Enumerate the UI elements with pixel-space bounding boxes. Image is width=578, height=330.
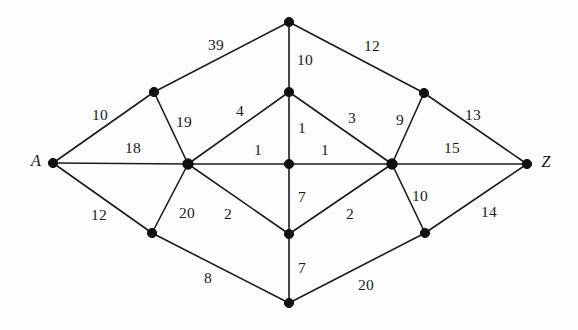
edge-weight-label: 18 [125, 140, 141, 156]
edge-weight-label: 2 [224, 206, 232, 222]
graph-node [284, 17, 293, 26]
graph-node [284, 298, 293, 307]
graph-node [387, 159, 397, 169]
edge-weight-label: 7 [298, 189, 306, 205]
edge-weight-label: 20 [179, 205, 195, 221]
edge-weight-label: 12 [91, 207, 107, 223]
graph-edge [425, 164, 527, 233]
edge-weight-label: 13 [465, 107, 481, 123]
edge-weight-label: 14 [481, 204, 497, 220]
edge-weight-label: 10 [92, 107, 108, 123]
node-label-z: Z [542, 154, 551, 170]
edge-weight-label: 12 [364, 38, 380, 54]
edge-weight-label: 4 [236, 103, 244, 119]
graph-node [522, 159, 531, 168]
edge-weight-label: 19 [176, 114, 192, 130]
graph-edge [424, 93, 527, 164]
edge-weight-label: 20 [358, 277, 374, 293]
graph-edge [152, 233, 289, 303]
graph-edge [392, 93, 424, 164]
graph-node [147, 228, 156, 237]
edge-weight-label: 1 [254, 142, 262, 158]
edge-weight-label: 9 [396, 112, 404, 128]
graph-edge [154, 22, 289, 92]
edge-weight-label: 2 [346, 206, 354, 222]
graph-node [48, 158, 57, 167]
graph-node [183, 159, 193, 169]
edge-weight-label: 1 [321, 142, 329, 158]
edge-weight-label: 3 [348, 110, 356, 126]
edge-weight-label: 10 [412, 188, 428, 204]
nodes-group [48, 17, 531, 307]
graph-diagram: 1018123919101241202139131715210871420 AZ [0, 0, 578, 330]
graph-node [284, 159, 293, 168]
graph-edge [152, 164, 188, 233]
graph-node [419, 88, 428, 97]
edge-weight-label: 39 [208, 37, 224, 53]
edge-weight-label: 7 [298, 260, 306, 276]
graph-edge [53, 163, 188, 164]
edge-weight-label: 1 [298, 120, 306, 136]
graph-node [284, 229, 293, 238]
graph-edge [188, 164, 289, 234]
edge-weight-label: 8 [204, 270, 212, 286]
edge-weight-label: 10 [297, 52, 313, 68]
graph-node [420, 228, 429, 237]
graph-canvas [0, 0, 578, 330]
node-label-a: A [31, 153, 41, 169]
edge-weight-label: 15 [444, 140, 460, 156]
graph-node [149, 87, 158, 96]
graph-node [284, 87, 293, 96]
